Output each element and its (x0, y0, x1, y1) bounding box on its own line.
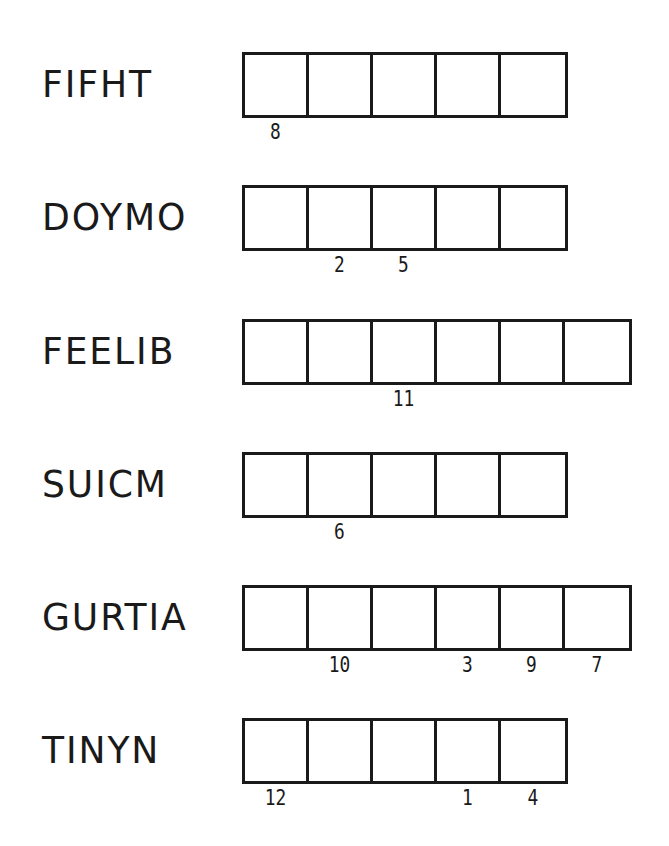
puzzle-row-2: DOYMO 25 (0, 185, 669, 295)
scrambled-word: FIFHT (42, 60, 153, 108)
answer-cell[interactable] (373, 455, 437, 515)
answer-cell[interactable]: 4 (501, 721, 565, 781)
cell-number: 1 (442, 785, 494, 811)
puzzle-row-6: TINYN 1214 (0, 718, 669, 828)
answer-cell[interactable] (501, 322, 565, 382)
puzzle-row-5: GURTIA 10397 (0, 585, 669, 695)
answer-cell[interactable] (565, 322, 629, 382)
answer-cell[interactable]: 6 (309, 455, 373, 515)
answer-boxes: 6 (242, 452, 568, 518)
answer-cell[interactable] (309, 55, 373, 115)
answer-cell[interactable] (501, 188, 565, 248)
answer-cell[interactable]: 11 (373, 322, 437, 382)
puzzle-row-3: FEELIB 11 (0, 319, 669, 429)
cell-number: 10 (314, 652, 366, 678)
cell-number: 6 (314, 519, 366, 545)
answer-boxes: 8 (242, 52, 568, 118)
answer-cell[interactable]: 2 (309, 188, 373, 248)
cell-number: 5 (378, 252, 430, 278)
cell-number: 2 (314, 252, 366, 278)
cell-number: 3 (442, 652, 494, 678)
answer-boxes: 10397 (242, 585, 632, 651)
cell-number: 11 (378, 386, 430, 412)
answer-cell[interactable]: 9 (501, 588, 565, 648)
answer-cell[interactable] (373, 55, 437, 115)
answer-cell[interactable] (437, 55, 501, 115)
answer-cell[interactable] (437, 188, 501, 248)
answer-cell[interactable]: 12 (245, 721, 309, 781)
answer-cell[interactable]: 8 (245, 55, 309, 115)
answer-cell[interactable]: 3 (437, 588, 501, 648)
cell-number: 7 (570, 652, 624, 678)
answer-cell[interactable] (245, 188, 309, 248)
puzzle-row-1: FIFHT 8 (0, 52, 669, 162)
answer-cell[interactable] (309, 721, 373, 781)
answer-cell[interactable] (245, 588, 309, 648)
answer-cell[interactable]: 1 (437, 721, 501, 781)
scrambled-word: GURTIA (42, 593, 188, 641)
scrambled-word: TINYN (42, 726, 160, 774)
answer-cell[interactable] (501, 455, 565, 515)
answer-cell[interactable] (245, 455, 309, 515)
cell-number: 8 (250, 119, 302, 145)
answer-cell[interactable] (437, 322, 501, 382)
cell-number: 12 (250, 785, 302, 811)
answer-cell[interactable] (245, 322, 309, 382)
answer-boxes: 1214 (242, 718, 568, 784)
puzzle-row-4: SUICM 6 (0, 452, 669, 562)
answer-boxes: 25 (242, 185, 568, 251)
answer-boxes: 11 (242, 319, 632, 385)
answer-cell[interactable] (373, 721, 437, 781)
answer-cell[interactable] (309, 322, 373, 382)
answer-cell[interactable] (437, 455, 501, 515)
scrambled-word: SUICM (42, 460, 168, 508)
cell-number: 9 (506, 652, 558, 678)
answer-cell[interactable]: 5 (373, 188, 437, 248)
answer-cell[interactable]: 7 (565, 588, 629, 648)
answer-cell[interactable]: 10 (309, 588, 373, 648)
scrambled-word: DOYMO (42, 193, 187, 241)
answer-cell[interactable] (373, 588, 437, 648)
scrambled-word: FEELIB (42, 327, 175, 375)
cell-number: 4 (506, 785, 560, 811)
answer-cell[interactable] (501, 55, 565, 115)
